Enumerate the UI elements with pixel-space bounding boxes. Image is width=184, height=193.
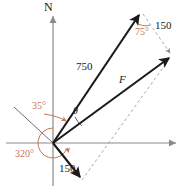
- label-angle-theta: θ: [73, 106, 78, 116]
- reference-ray: [14, 107, 53, 143]
- label-angle-320: 320°: [15, 149, 34, 159]
- label-angle-35: 35°: [32, 101, 46, 111]
- label-magnitude-150-top: 150: [155, 20, 172, 31]
- dashed-parallelogram-side: [82, 58, 170, 180]
- vector-group: [53, 15, 169, 177]
- dashed-construction-group: [82, 14, 170, 180]
- label-resultant-F: F: [119, 74, 126, 85]
- angle-35-pointer: [44, 114, 66, 121]
- label-magnitude-150-bottom: 150: [59, 163, 76, 174]
- angle-arc-group: [38, 22, 150, 158]
- label-angle-75: 75°: [135, 27, 149, 37]
- vector-750: [53, 15, 139, 143]
- vector-diagram: N 750 150 150 F 35° 75° 320° θ: [0, 0, 184, 193]
- north-axis-label: N: [44, 1, 53, 13]
- angle-320-arrowhead: [67, 148, 68, 152]
- label-magnitude-750: 750: [76, 61, 93, 72]
- vector-F-resultant: [53, 58, 169, 143]
